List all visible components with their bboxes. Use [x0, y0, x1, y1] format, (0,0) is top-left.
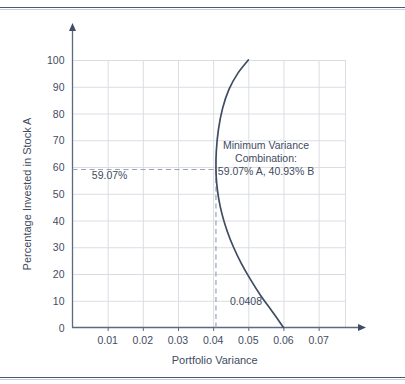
y-tick-label: 0	[59, 322, 65, 334]
x-tick-label: 0.03	[168, 334, 189, 346]
minimum-variance-callout-line-3: 59.07% A, 40.93% B	[218, 165, 314, 177]
y-axis-arrowhead	[69, 23, 76, 31]
x-tick-label: 0.04	[203, 334, 224, 346]
x-axis-title: Portfolio Variance	[172, 354, 258, 366]
y-tick-label: 30	[53, 241, 65, 253]
x-tick-labels: 0.010.020.030.040.050.060.07	[97, 334, 329, 346]
y-tick-label: 70	[53, 134, 65, 146]
y-tick-label: 10	[53, 295, 65, 307]
y-tick-label: 20	[53, 268, 65, 280]
x-tick-label: 0.01	[97, 334, 118, 346]
minimum-variance-callout-line-2: Combination:	[235, 152, 297, 164]
y-tick-labels: 0102030405060708090100	[47, 54, 65, 334]
figure-container: 0.010.020.030.040.050.060.07 01020304050…	[0, 0, 405, 384]
minimum-variance-callout-line-1: Minimum Variance	[223, 139, 309, 151]
y-tick-label: 100	[47, 54, 65, 66]
y-tick-label: 80	[53, 108, 65, 120]
portfolio-variance-chart: 0.010.020.030.040.050.060.07 01020304050…	[0, 0, 405, 384]
x-tick-label: 0.05	[238, 334, 259, 346]
x-axis-arrowhead	[358, 324, 366, 331]
x-guide-value-label: 0.0408	[230, 295, 262, 307]
figure-bottom-rule	[0, 377, 405, 378]
y-tick-label: 40	[53, 215, 65, 227]
y-axis-title: Percentage Invested in Stock A	[21, 117, 33, 271]
y-tick-label: 60	[53, 161, 65, 173]
y-guide-value-label: 59.07%	[92, 169, 128, 181]
x-tick-label: 0.06	[273, 334, 294, 346]
figure-bottom-rule-soft	[0, 379, 405, 380]
y-tick-label: 50	[53, 188, 65, 200]
y-tick-label: 90	[53, 81, 65, 93]
x-tick-label: 0.02	[133, 334, 154, 346]
x-tick-label: 0.07	[308, 334, 329, 346]
